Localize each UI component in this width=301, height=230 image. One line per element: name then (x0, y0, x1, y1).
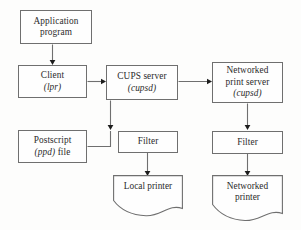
node-client: Client (lpr) (18, 65, 87, 98)
node-networked-printer-label-line1: Networked (227, 175, 268, 192)
node-cups-server-line1: CUPS server (117, 71, 166, 82)
node-networked-print-server-line3: (cupsd) (233, 88, 262, 99)
node-application-program: Application program (20, 10, 92, 44)
node-application-program-line1: Application (34, 16, 79, 27)
node-client-line1: Client (41, 70, 64, 81)
node-filter-networked: Filter (212, 131, 283, 154)
node-networked-printer: Networked printer (212, 175, 283, 222)
node-filter-networked-label: Filter (237, 137, 258, 148)
diagram-canvas: Application program Client (lpr) CUPS se… (0, 0, 301, 230)
node-local-printer: Local printer (113, 175, 183, 217)
node-filter-local-label: Filter (138, 136, 159, 147)
node-cups-server: CUPS server (cupsd) (106, 65, 178, 100)
node-postscript-line2: (ppd) file (35, 147, 71, 158)
node-application-program-line2: program (40, 27, 72, 38)
node-postscript-line1: Postscript (34, 135, 72, 146)
node-networked-print-server: Networked print server (cupsd) (212, 62, 283, 103)
node-cups-server-line2: (cupsd) (128, 83, 157, 94)
node-networked-printer-label-line2: printer (235, 192, 260, 203)
node-networked-print-server-line1: Networked (226, 65, 268, 76)
node-local-printer-label: Local printer (124, 175, 172, 192)
node-networked-print-server-line2: print server (226, 77, 270, 88)
node-filter-local: Filter (118, 131, 178, 153)
node-postscript-ppd-token: (ppd) (35, 147, 56, 157)
node-postscript-ppd-file: Postscript (ppd) file (18, 130, 87, 163)
node-postscript-file-token: file (55, 147, 70, 157)
node-client-line2: (lpr) (44, 82, 62, 93)
